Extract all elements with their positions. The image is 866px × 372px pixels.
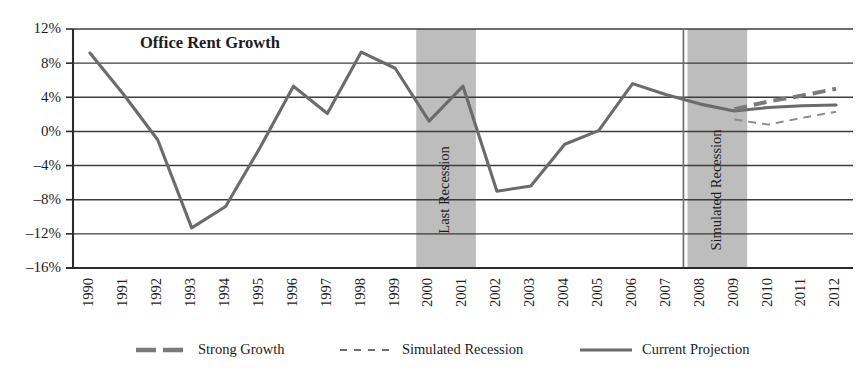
x-axis-tick-label: 2012 xyxy=(826,278,842,307)
x-axis-tick-label: 1996 xyxy=(284,278,300,307)
x-axis-tick-label: 2005 xyxy=(589,278,605,307)
x-axis-tick-label: 2004 xyxy=(555,277,571,307)
y-axis-tick-label: –12% xyxy=(25,225,61,241)
y-axis-tick-label: –8% xyxy=(33,191,62,207)
x-axis-tick-label: 2001 xyxy=(453,278,469,307)
x-axis-tick-label: 1999 xyxy=(386,278,402,307)
x-axis-tick-label: 1998 xyxy=(352,278,368,307)
chart-legend: Strong GrowthSimulated RecessionCurrent … xyxy=(136,341,750,357)
x-axis-tick-label: 1995 xyxy=(250,278,266,307)
y-axis-tick-label: 4% xyxy=(41,89,61,105)
legend-item[interactable]: Current Projection xyxy=(580,341,750,357)
recession-bands xyxy=(416,29,747,268)
series-line-simulated-recession xyxy=(734,112,836,125)
y-axis-tick-labels: 12%8%4%0%–4%–8%–12%–16% xyxy=(25,20,73,275)
legend-label: Strong Growth xyxy=(198,341,285,357)
legend-item[interactable]: Simulated Recession xyxy=(340,341,524,357)
x-axis-tick-label: 2000 xyxy=(419,278,435,307)
recession-band-label: Last Recession xyxy=(436,146,452,234)
legend-label: Simulated Recession xyxy=(402,341,524,357)
chart-canvas: 12%8%4%0%–4%–8%–12%–16% 1990199119921993… xyxy=(0,0,866,372)
legend-item[interactable]: Strong Growth xyxy=(136,341,285,357)
x-axis-tick-label: 1991 xyxy=(114,278,130,307)
y-axis-tick-label: 12% xyxy=(34,20,62,36)
x-axis-tick-label: 2006 xyxy=(623,278,639,307)
recession-band-labels: Last RecessionSimulated Recession xyxy=(436,129,723,251)
x-axis-tick-label: 2009 xyxy=(725,278,741,307)
x-axis-tick-label: 2003 xyxy=(521,278,537,307)
x-axis-tick-labels: 1990199119921993199419951996199719981999… xyxy=(80,277,842,307)
y-axis-tick-label: –16% xyxy=(25,259,61,275)
y-axis-tick-label: 0% xyxy=(41,123,61,139)
x-axis-tick-label: 1994 xyxy=(216,277,232,307)
y-axis-tick-label: 8% xyxy=(41,55,61,71)
x-axis-tick-label: 1993 xyxy=(182,278,198,307)
x-axis-tick-label: 1990 xyxy=(80,278,96,307)
x-axis-tick-label: 1997 xyxy=(318,278,334,307)
x-axis-tick-label: 2008 xyxy=(691,278,707,307)
chart-title: Office Rent Growth xyxy=(140,33,280,52)
office-rent-growth-chart: 12%8%4%0%–4%–8%–12%–16% 1990199119921993… xyxy=(0,0,866,372)
x-axis-tick-label: 2002 xyxy=(487,278,503,307)
y-axis-tick-label: –4% xyxy=(33,157,62,173)
x-axis-tick-label: 2007 xyxy=(657,278,673,307)
x-axis-tick-label: 2010 xyxy=(759,278,775,307)
legend-label: Current Projection xyxy=(642,341,750,357)
x-axis-tick-label: 1992 xyxy=(148,278,164,307)
x-axis-tick-label: 2011 xyxy=(792,278,808,306)
recession-band-label: Simulated Recession xyxy=(708,129,724,251)
